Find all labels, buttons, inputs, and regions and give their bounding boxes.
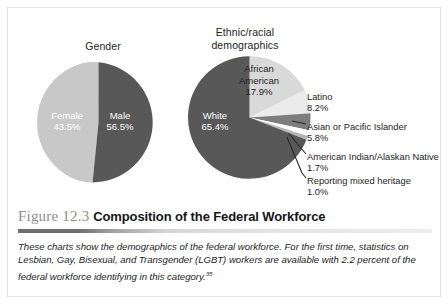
ethnic-chart-title: Ethnic/racial demographics: [190, 26, 300, 51]
gender-slice-label-female: Female 43.5%: [41, 110, 93, 132]
charts-area: Gender Female 43.5% Male 56.5% Ethnic/ra…: [0, 0, 448, 203]
callout-percent-asian-pacific-islander: 5.8%: [307, 133, 407, 144]
callout-name-american-indian-alaskan-native: American Indian/Alaskan Native: [307, 152, 439, 163]
figure-caption-block: Figure 12.3 Composition of the Federal W…: [18, 208, 434, 283]
figure-caption-footnote-marker: 35: [206, 270, 213, 277]
callout-name-latino: Latino: [307, 92, 332, 103]
slice-percent-male: 56.5%: [96, 121, 144, 132]
leader-line-asian-pacific-islander: [292, 121, 306, 124]
figure-headline: Figure 12.3 Composition of the Federal W…: [18, 208, 434, 225]
slice-percent-white: 65.4%: [190, 121, 240, 132]
callout-percent-latino: 8.2%: [307, 103, 332, 114]
gender-chart-title: Gender: [53, 40, 153, 53]
slice-name-african-american-line2: American: [232, 75, 286, 87]
figure-title: Composition of the Federal Workforce: [93, 209, 325, 224]
slice-percent-african-american: 17.9%: [232, 86, 286, 98]
callout-asian-pacific-islander: Asian or Pacific Islander 5.8%: [307, 122, 407, 144]
slice-name-white: White: [190, 110, 240, 121]
figure-caption-body: These charts show the demographics of th…: [18, 241, 416, 282]
callout-reporting-mixed-heritage: Reporting mixed heritage 1.0%: [307, 176, 411, 198]
ethnic-chart-title-line1: Ethnic/racial: [190, 26, 300, 39]
slice-name-african-american-line1: African: [232, 63, 286, 75]
callout-percent-american-indian-alaskan-native: 1.7%: [307, 163, 439, 174]
callout-american-indian-alaskan-native: American Indian/Alaskan Native 1.7%: [307, 152, 439, 174]
gender-slice-label-male: Male 56.5%: [96, 110, 144, 132]
callout-percent-reporting-mixed-heritage: 1.0%: [307, 187, 411, 198]
figure-container: Gender Female 43.5% Male 56.5% Ethnic/ra…: [0, 0, 448, 304]
slice-name-female: Female: [41, 110, 93, 121]
ethnic-slice-label-african-american: African American 17.9%: [232, 63, 286, 98]
callout-latino: Latino 8.2%: [307, 92, 332, 114]
figure-caption-text: These charts show the demographics of th…: [18, 240, 422, 283]
slice-percent-female: 43.5%: [41, 121, 93, 132]
callout-name-asian-pacific-islander: Asian or Pacific Islander: [307, 122, 407, 133]
callout-name-reporting-mixed-heritage: Reporting mixed heritage: [307, 176, 411, 187]
leader-line-american-indian: [289, 133, 307, 154]
slice-name-male: Male: [96, 110, 144, 121]
figure-number: Figure 12.3: [18, 208, 89, 224]
ethnic-chart-title-line2: demographics: [190, 39, 300, 52]
figure-rule-bar: [18, 229, 432, 233]
ethnic-slice-label-white: White 65.4%: [190, 110, 240, 132]
